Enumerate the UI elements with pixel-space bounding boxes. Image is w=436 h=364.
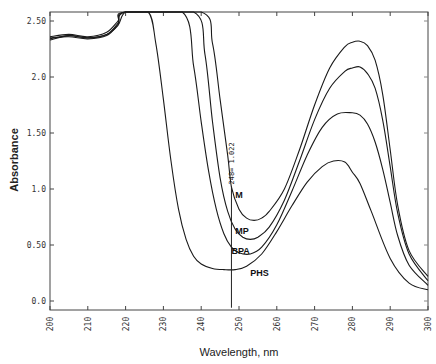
y-tick-label: 1.50 bbox=[27, 129, 46, 138]
x-tick-label: 220 bbox=[122, 317, 131, 332]
x-tick-label: 280 bbox=[348, 317, 357, 332]
series-label-mp: MP bbox=[235, 226, 249, 236]
absorbance-chart: 0.00.501.01.502.02.50 200210220230240250… bbox=[0, 0, 436, 364]
x-tick-label: 210 bbox=[84, 317, 93, 332]
x-tick-label: 250 bbox=[235, 317, 244, 332]
series-labels: MMPBPAPHS bbox=[231, 190, 268, 278]
y-tick-label: 2.50 bbox=[27, 17, 46, 26]
cursor-annotation-label: 248= 1.022 bbox=[228, 142, 236, 184]
spectrum-bpa bbox=[50, 12, 428, 285]
x-tick-label: 230 bbox=[159, 317, 168, 332]
x-tick-label: 240 bbox=[197, 317, 206, 332]
x-tick-label: 200 bbox=[46, 317, 55, 332]
series-label-phs: PHS bbox=[250, 268, 269, 278]
x-tick-label: 260 bbox=[273, 317, 282, 332]
x-tick-label: 300 bbox=[424, 317, 433, 332]
x-tick-label: 270 bbox=[311, 317, 320, 332]
y-tick-label: 0.0 bbox=[32, 297, 47, 306]
y-tick-label: 1.0 bbox=[32, 185, 47, 194]
y-tick-label: 0.50 bbox=[27, 241, 46, 250]
y-tick-label: 2.0 bbox=[32, 73, 47, 82]
y-axis-title: Absorbance bbox=[8, 128, 20, 192]
spectrum-m bbox=[50, 12, 428, 276]
x-tick-label: 290 bbox=[386, 317, 395, 332]
x-axis-title: Wavelength, nm bbox=[199, 346, 278, 358]
axes bbox=[50, 12, 428, 310]
y-axis-ticks: 0.00.501.01.502.02.50 bbox=[27, 17, 428, 306]
series-label-bpa: BPA bbox=[231, 246, 250, 256]
plot-frame bbox=[50, 12, 428, 310]
series-label-m: M bbox=[235, 190, 243, 200]
